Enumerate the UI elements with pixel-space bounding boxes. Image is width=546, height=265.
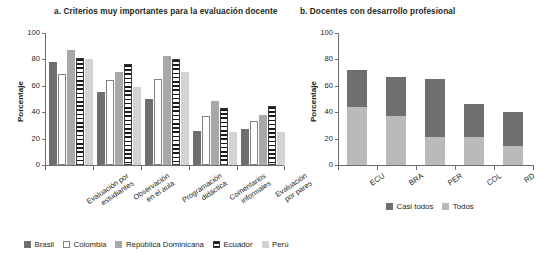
panel-a-xtick-5	[284, 166, 285, 170]
panel-a-ytick-label-100: 100	[22, 29, 40, 37]
panel-a-xlabel-3: Comentarios informales	[228, 172, 272, 210]
panel-b-legend: Casi todos Todos	[386, 202, 483, 211]
bar-todos-bra	[386, 116, 406, 165]
bar-rd-g1	[67, 50, 75, 165]
panel-a-xlabel-1: Observación en el aula	[132, 172, 176, 209]
panel-a-ytick-40	[42, 112, 45, 113]
bar-colombia-g1	[58, 74, 66, 165]
bar-peru-g3	[181, 72, 189, 165]
bar-colombia-g5	[250, 121, 258, 165]
panel-a-ytick-100	[42, 33, 45, 34]
bar-peru-g5	[277, 132, 285, 165]
panel-a-xtick-3	[189, 166, 190, 170]
panel-a-ytick-80	[42, 59, 45, 60]
panel-b-xlabel-3: COL	[486, 172, 504, 188]
bar-casi-todos-rd	[503, 112, 523, 146]
panel-b-ytick-80	[335, 59, 338, 60]
panel-a-legend: Brasil Colombia República Dominicana Ecu…	[24, 240, 297, 249]
panel-a-xlabel-0: Evaluación por estudiantes	[85, 172, 135, 214]
legend-swatch-peru-icon	[262, 241, 269, 248]
panel-a-chart: Porcentaje 100 80 60 40 20 0	[0, 0, 290, 265]
panel-b-ytick-label-100: 100	[315, 29, 333, 37]
panel-a-y-axis-line	[45, 33, 46, 166]
legend-swatch-brasil-icon	[24, 241, 31, 248]
bar-todos-per	[425, 137, 445, 165]
legend-item-brasil: Brasil	[24, 240, 54, 249]
bar-ecuador-g3	[172, 59, 180, 165]
bar-brasil-g4	[193, 131, 201, 165]
bar-todos-rd	[503, 146, 523, 165]
panel-a-xtick-0	[45, 166, 46, 170]
panel-a-x-axis-line	[45, 165, 284, 166]
panel-b-ytick-label-40: 40	[315, 108, 333, 116]
panel-b-xtick-2	[416, 166, 417, 170]
bar-casi-todos-per	[425, 79, 445, 137]
panel-a-ytick-label-0: 0	[22, 161, 40, 169]
legend-item-casi-todos: Casi todos	[386, 202, 433, 211]
bar-colombia-g4	[202, 116, 210, 165]
bar-peru-g4	[229, 132, 237, 165]
bar-casi-todos-bra	[386, 77, 406, 116]
panel-b-xtick-1	[377, 166, 378, 170]
legend-item-ecuador: Ecuador	[213, 240, 253, 249]
panel-b-ytick-label-80: 80	[315, 55, 333, 63]
legend-label-republica-dominicana: República Dominicana	[126, 240, 204, 249]
legend-item-colombia: Colombia	[63, 240, 106, 249]
bar-todos-col	[464, 137, 484, 165]
panel-b-ytick-label-0: 0	[315, 161, 333, 169]
bar-peru-g2	[133, 87, 141, 165]
panel-a-ytick-label-40: 40	[22, 108, 40, 116]
bar-ecuador-g4	[220, 108, 228, 165]
legend-label-peru: Perú	[272, 240, 288, 249]
panel-a-xtick-2	[141, 166, 142, 170]
legend-item-todos: Todos	[442, 202, 473, 211]
panel-b-xtick-5	[533, 166, 534, 170]
bar-rd-g4	[211, 101, 219, 165]
legend-swatch-republica-dominicana-icon	[115, 241, 122, 248]
bar-casi-todos-ecu	[347, 70, 367, 107]
bar-brasil-g2	[97, 92, 105, 165]
panel-b-ytick-60	[335, 86, 338, 87]
bar-colombia-g3	[154, 79, 162, 165]
legend-label-ecuador: Ecuador	[223, 240, 252, 249]
bar-todos-ecu	[347, 107, 367, 165]
panel-a-ytick-label-60: 60	[22, 82, 40, 90]
panel-a-xlabel-2: Programación didáctica	[181, 172, 229, 212]
legend-swatch-colombia-icon	[63, 241, 70, 248]
figure-root: a. Criterios muy importantes para la eva…	[0, 0, 546, 265]
legend-swatch-todos-icon	[442, 203, 449, 210]
bar-rd-g3	[163, 56, 171, 165]
legend-label-brasil: Brasil	[35, 240, 55, 249]
panel-a-ytick-60	[42, 86, 45, 87]
panel-b-ytick-label-20: 20	[315, 135, 333, 143]
bar-ecuador-g1	[76, 58, 84, 165]
panel-b-chart: Porcentaje 100 80 60 40 20 0	[290, 0, 546, 265]
panel-a-ytick-label-80: 80	[22, 55, 40, 63]
bar-ecuador-g5	[268, 106, 276, 165]
panel-b-ytick-label-60: 60	[315, 82, 333, 90]
panel-b-y-axis-line	[338, 33, 339, 166]
panel-b-xtick-3	[455, 166, 456, 170]
panel-b-ytick-100	[335, 33, 338, 34]
panel-b-xtick-4	[494, 166, 495, 170]
panel-b-xlabel-4: RD	[523, 172, 537, 185]
panel-a-xtick-4	[237, 166, 238, 170]
panel-a-xtick-1	[93, 166, 94, 170]
bar-colombia-g2	[106, 80, 114, 165]
bar-rd-g2	[115, 72, 123, 165]
panel-a-ytick-label-20: 20	[22, 135, 40, 143]
legend-label-colombia: Colombia	[74, 240, 107, 249]
bar-rd-g5	[259, 115, 267, 165]
panel-b-ytick-20	[335, 139, 338, 140]
bar-ecuador-g2	[124, 64, 132, 165]
legend-label-casi-todos: Casi todos	[397, 202, 434, 211]
legend-swatch-casi-todos-icon	[386, 203, 393, 210]
bar-peru-g1	[85, 59, 93, 165]
bar-brasil-g3	[145, 99, 153, 165]
panel-b-xlabel-1: BRA	[408, 172, 426, 188]
panel-b-xlabel-2: PER	[447, 172, 465, 188]
legend-swatch-ecuador-icon	[213, 241, 220, 248]
bar-brasil-g1	[49, 62, 57, 165]
legend-item-republica-dominicana: República Dominicana	[115, 240, 204, 249]
panel-b-ytick-40	[335, 112, 338, 113]
